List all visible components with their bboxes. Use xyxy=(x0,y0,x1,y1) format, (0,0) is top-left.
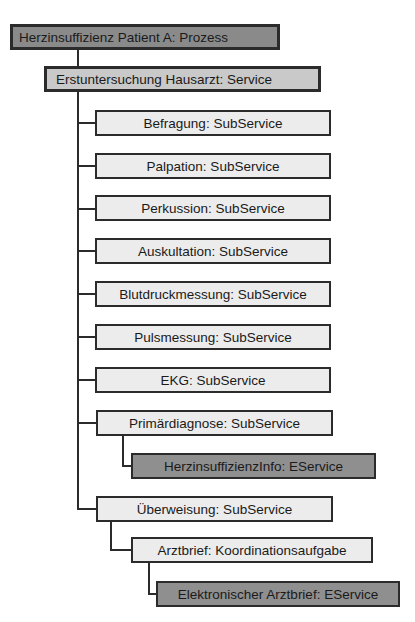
connector-branch-blutdruck xyxy=(77,293,96,295)
node-eservice-elektronischer-arztbrief: Elektronischer Arztbrief: EService xyxy=(156,581,400,607)
connector-branch-ekg xyxy=(77,379,96,381)
connector-ueber-arzt-h xyxy=(110,549,132,551)
connector-branch-auskultation xyxy=(77,250,96,252)
connector-branch-puls xyxy=(77,336,96,338)
node-subservice-blutdruckmessung: Blutdruckmessung: SubService xyxy=(95,281,331,307)
connector-ueber-arzt-v xyxy=(110,521,112,551)
connector-arzt-elektr-v xyxy=(148,563,150,595)
connector-branch-palpation xyxy=(77,165,96,167)
node-subservice-auskultation: Auskultation: SubService xyxy=(95,238,331,264)
node-subservice-ekg: EKG: SubService xyxy=(95,367,331,393)
node-prozess: Herzinsuffizienz Patient A: Prozess xyxy=(10,24,280,50)
node-koordination-arztbrief: Arztbrief: Koordinationsaufgabe xyxy=(131,537,373,563)
node-service: Erstuntersuchung Hausarzt: Service xyxy=(44,66,321,92)
node-subservice-perkussion: Perkussion: SubService xyxy=(95,195,331,221)
connector-branch-ueberweisung xyxy=(77,508,96,510)
node-subservice-befragung: Befragung: SubService xyxy=(95,110,331,136)
connector-branch-befragung xyxy=(77,122,96,124)
connector-branch-primaer xyxy=(77,422,96,424)
connector-service-trunk xyxy=(77,92,79,509)
node-eservice-herzinsuffizienzinfo: HerzinsuffizienzInfo: EService xyxy=(131,453,376,479)
node-subservice-primaerdiagnose: Primärdiagnose: SubService xyxy=(96,410,333,436)
node-subservice-pulsmessung: Pulsmessung: SubService xyxy=(95,324,331,350)
connector-root-service xyxy=(77,49,79,67)
node-subservice-ueberweisung: Überweisung: SubService xyxy=(96,496,333,522)
connector-primaer-info-v xyxy=(122,435,124,467)
node-subservice-palpation: Palpation: SubService xyxy=(95,153,331,179)
connector-branch-perkussion xyxy=(77,208,96,210)
